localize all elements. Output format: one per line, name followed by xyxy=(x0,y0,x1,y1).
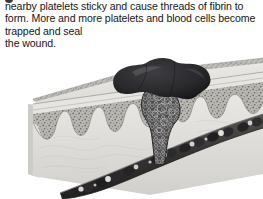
block-left-edge-shadow xyxy=(28,104,33,176)
figure-page: nearby platelets sticky and cause thread… xyxy=(0,0,263,199)
illustration-svg xyxy=(0,52,263,199)
blood-clot-illustration xyxy=(0,52,263,199)
figure-caption: nearby platelets sticky and cause thread… xyxy=(5,0,260,50)
